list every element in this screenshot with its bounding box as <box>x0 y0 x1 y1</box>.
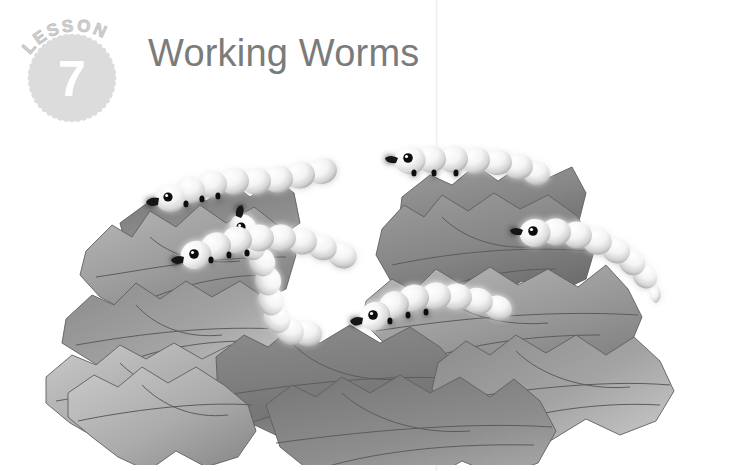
lesson-number: 7 <box>58 51 86 107</box>
lesson-page: 7 LESSON Working Worms <box>0 0 744 471</box>
worms-on-leaves-illustration <box>0 105 744 465</box>
leaf-cluster <box>46 163 674 465</box>
page-title: Working Worms <box>148 32 419 75</box>
